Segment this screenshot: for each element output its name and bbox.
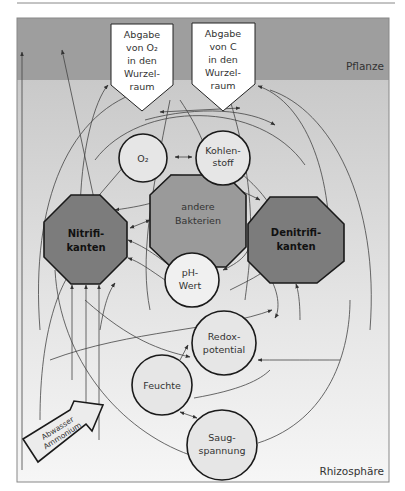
svg-text:Wert: Wert [179,280,202,291]
svg-text:Nitrifi-: Nitrifi- [68,228,105,239]
svg-text:Saug-: Saug- [208,432,235,443]
node-saugspannung: Saug- spannung [187,410,257,480]
svg-text:Abgabe: Abgabe [124,29,160,40]
svg-text:von C: von C [209,41,236,52]
rhizosphere-diagram: Pflanze Rhizosphäre [0,0,405,491]
node-o2: O₂ [119,134,167,182]
svg-text:Feuchte: Feuchte [143,380,181,391]
node-redoxpotential: Redox- potential [192,311,256,375]
svg-text:in den: in den [127,55,157,66]
node-kohlenstoff: Kohlen- stoff [196,131,250,185]
svg-text:in den: in den [208,54,238,65]
svg-text:stoff: stoff [212,157,233,168]
zone-label-rhizosphaere: Rhizosphäre [319,465,384,477]
node-denitrifikanten: Denitrifi- kanten [248,197,344,283]
zone-label-pflanze: Pflanze [346,60,384,72]
svg-text:Bakterien: Bakterien [175,215,221,226]
svg-text:Wurzel-: Wurzel- [124,68,160,79]
svg-text:raum: raum [210,80,235,91]
svg-text:von O₂: von O₂ [126,42,158,53]
svg-text:kanten: kanten [66,242,105,253]
svg-text:Redox-: Redox- [208,331,241,342]
svg-text:Kohlen-: Kohlen- [205,145,241,156]
node-feuchte: Feuchte [132,355,192,415]
svg-text:kanten: kanten [276,241,315,252]
svg-text:raum: raum [129,81,154,92]
svg-text:pH-: pH- [182,267,199,278]
svg-text:andere: andere [181,201,214,212]
svg-text:spannung: spannung [199,445,246,456]
svg-text:Abgabe: Abgabe [205,28,241,39]
svg-text:Denitrifi-: Denitrifi- [271,227,321,238]
svg-text:Wurzel-: Wurzel- [205,67,241,78]
svg-text:potential: potential [203,344,245,355]
svg-text:O₂: O₂ [137,153,148,164]
node-ph-wert: pH- Wert [165,253,219,307]
